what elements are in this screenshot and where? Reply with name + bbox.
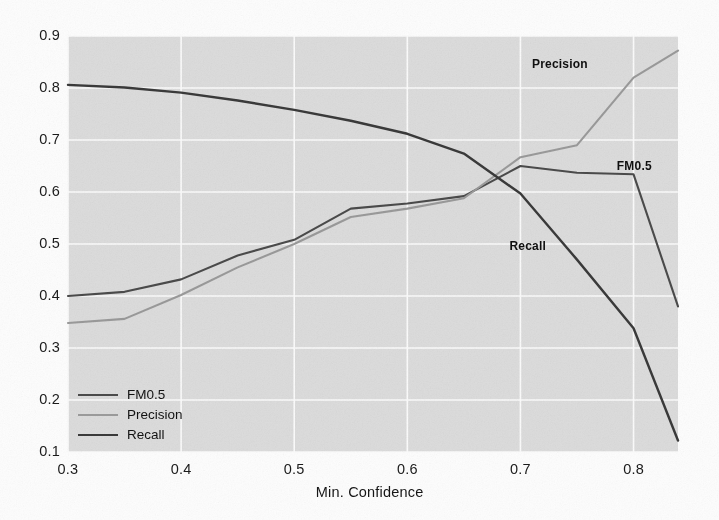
y-tick-label: 0.9 — [20, 27, 60, 43]
annotation-precision: Precision — [532, 57, 588, 71]
x-tick-label: 0.7 — [495, 461, 545, 477]
y-tick-label: 0.7 — [20, 131, 60, 147]
legend-line-swatch — [78, 434, 118, 436]
x-tick-label: 0.3 — [43, 461, 93, 477]
y-tick-label: 0.5 — [20, 235, 60, 251]
legend-line-swatch — [78, 414, 118, 416]
x-tick-label: 0.6 — [382, 461, 432, 477]
legend-item: Precision — [78, 408, 183, 422]
chart-legend: FM0.5PrecisionRecall — [78, 388, 183, 442]
y-tick-label: 0.1 — [20, 443, 60, 459]
x-axis-title: Min. Confidence — [316, 484, 424, 500]
x-tick-label: 0.8 — [609, 461, 659, 477]
legend-item-label: Recall — [127, 428, 165, 442]
y-tick-label: 0.6 — [20, 183, 60, 199]
y-tick-label: 0.4 — [20, 287, 60, 303]
annotation-recall: Recall — [509, 239, 546, 253]
legend-item: Recall — [78, 428, 183, 442]
legend-item-label: Precision — [127, 408, 183, 422]
legend-item-label: FM0.5 — [127, 388, 165, 402]
legend-item: FM0.5 — [78, 388, 183, 402]
annotation-fm0-5: FM0.5 — [617, 159, 652, 173]
x-tick-label: 0.5 — [269, 461, 319, 477]
y-tick-label: 0.2 — [20, 391, 60, 407]
x-tick-label: 0.4 — [156, 461, 206, 477]
y-tick-label: 0.3 — [20, 339, 60, 355]
chart-figure: 0.10.20.30.40.50.60.70.80.9 0.30.40.50.6… — [0, 0, 719, 520]
chart-plot-area — [0, 0, 719, 520]
legend-line-swatch — [78, 394, 118, 396]
y-tick-label: 0.8 — [20, 79, 60, 95]
